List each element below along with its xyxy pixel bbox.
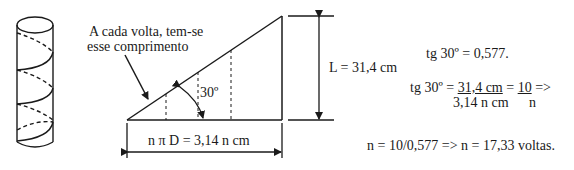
cylinder-top-ellipse (17, 17, 53, 33)
equation-tangent-value: tg 30º = 0,577. (426, 46, 509, 61)
eq2-numerator-1: 31,4 cm (458, 80, 503, 95)
helix-front-3 (17, 122, 53, 141)
annotation-arrow (125, 55, 148, 99)
eq2-prefix: tg 30º = (410, 80, 458, 95)
helix-hidden-2 (17, 70, 53, 88)
equation-tangent-ratio: tg 30º = 31,4 cm = 10 => (410, 80, 551, 95)
helix-front-2 (17, 88, 53, 104)
helix-hidden-4 (17, 122, 53, 130)
angle-label: 30º (200, 85, 218, 100)
height-dimension (288, 16, 334, 120)
annotation-line-1: A cada volta, tem-se (89, 24, 203, 39)
eq2-denominator-2: n (529, 95, 536, 110)
eq2-numerator-2: 10 (518, 80, 532, 95)
helix-hidden-3 (17, 104, 53, 120)
base-label: n π D = 3,14 n cm (148, 133, 250, 148)
helix-hidden-1 (17, 33, 53, 52)
eq2-equals: = (503, 80, 518, 95)
annotation-line-2: esse comprimento (87, 39, 188, 54)
eq2-denominator-1: 3,14 n cm (453, 95, 509, 110)
height-label: L = 31,4 cm (329, 60, 397, 75)
eq2-suffix: => (532, 80, 551, 95)
cylinder-helix-figure (17, 17, 53, 147)
helix-front-1 (17, 52, 53, 70)
cylinder-bottom-arc (17, 142, 53, 147)
equation-result: n = 10/0,577 => n = 17,33 voltas. (367, 138, 555, 153)
